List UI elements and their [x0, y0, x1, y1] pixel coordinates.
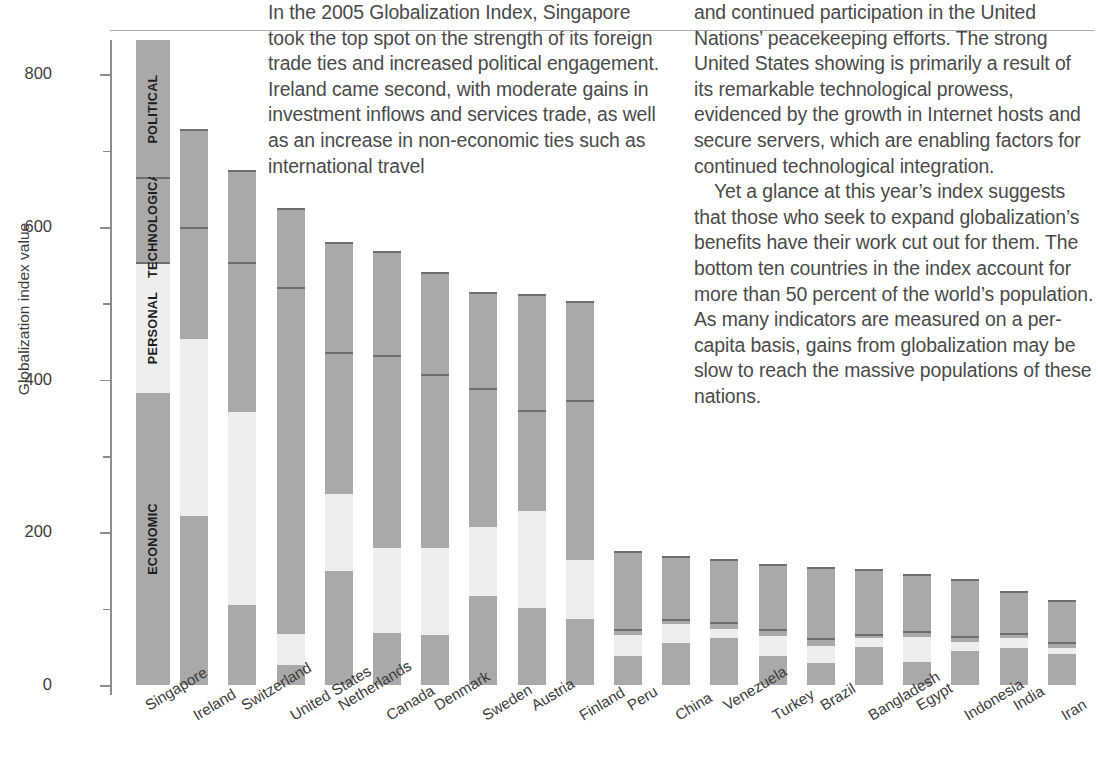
bar-segment-technological — [855, 634, 883, 639]
bar-canada[interactable] — [373, 251, 401, 685]
y-axis-line — [110, 40, 112, 695]
bar-iran[interactable] — [1048, 600, 1076, 685]
bar-segment-personal — [566, 560, 594, 620]
bar-segment-economic — [1048, 654, 1076, 685]
bar-segment-technological — [662, 619, 690, 624]
bar-segment-technological — [180, 227, 208, 339]
legend-segment-political: POLITICAL — [136, 40, 170, 177]
legend-stacked-bar: ECONOMICPERSONALTECHNOLOGICALPOLITICAL — [136, 40, 170, 685]
bar-segment-personal — [662, 624, 690, 643]
bar-egypt[interactable] — [903, 574, 931, 685]
bar-segment-technological — [1048, 642, 1076, 647]
bar-finland[interactable] — [566, 301, 594, 685]
y-tick-label-600: 600 — [0, 217, 52, 236]
bar-segment-personal — [951, 642, 979, 651]
bar-peru[interactable] — [614, 551, 642, 685]
category-label-ireland: Ireland — [190, 685, 239, 723]
y-tick-0 — [100, 685, 110, 687]
bar-ireland[interactable] — [180, 129, 208, 685]
bar-segment-economic — [421, 635, 449, 685]
category-label-iran: Iran — [1058, 696, 1089, 724]
bar-segment-economic — [855, 647, 883, 685]
category-label-sweden: Sweden — [479, 681, 535, 724]
bar-segment-personal — [614, 635, 642, 656]
y-tick-label-200: 200 — [0, 522, 52, 541]
bar-bangladesh[interactable] — [855, 569, 883, 685]
bar-segment-technological — [566, 400, 594, 560]
bar-segment-economic — [180, 516, 208, 685]
bar-united-states[interactable] — [277, 208, 305, 685]
y-tick-600 — [100, 227, 110, 229]
bar-segment-political — [566, 301, 594, 400]
y-tick-label-400: 400 — [0, 370, 52, 389]
bar-segment-technological — [614, 629, 642, 635]
bar-denmark[interactable] — [421, 272, 449, 685]
bar-segment-political — [373, 251, 401, 354]
legend-label-personal: PERSONAL — [146, 292, 160, 364]
y-minor-tick-300 — [103, 456, 110, 458]
category-label-peru: Peru — [624, 682, 660, 713]
bar-segment-personal — [469, 527, 497, 596]
bar-segment-technological — [421, 374, 449, 548]
bar-segment-political — [710, 559, 738, 622]
category-label-china: China — [672, 689, 715, 724]
bar-segment-personal — [710, 629, 738, 638]
y-minor-tick-700 — [103, 151, 110, 153]
bar-switzerland[interactable] — [228, 170, 256, 685]
bar-india[interactable] — [1000, 591, 1028, 685]
bar-segment-technological — [903, 631, 931, 637]
bar-segment-technological — [325, 352, 353, 494]
bar-segment-political — [325, 242, 353, 352]
y-tick-200 — [100, 532, 110, 534]
bar-segment-political — [614, 551, 642, 629]
legend-segment-technological: TECHNOLOGICAL — [136, 177, 170, 263]
bar-segment-political — [951, 579, 979, 636]
y-minor-tick-500 — [103, 303, 110, 305]
bar-segment-personal — [903, 637, 931, 662]
bar-segment-personal — [759, 636, 787, 656]
plot-area: 0200400600800 ECONOMICPERSONALTECHNOLOGI… — [64, 30, 1094, 690]
bar-venezuela[interactable] — [710, 559, 738, 685]
bar-segment-political — [759, 564, 787, 629]
bar-segment-economic — [566, 619, 594, 685]
y-tick-800 — [100, 74, 110, 76]
bar-segment-personal — [180, 339, 208, 515]
y-tick-400 — [100, 380, 110, 382]
legend-label-political: POLITICAL — [146, 74, 160, 143]
bar-segment-economic — [951, 651, 979, 685]
bar-netherlands[interactable] — [325, 242, 353, 685]
bar-segment-economic — [518, 608, 546, 685]
x-axis-baseline — [110, 30, 1094, 31]
bar-segment-personal — [518, 511, 546, 608]
y-tick-label-800: 800 — [0, 64, 52, 83]
globalization-index-chart: Globalization index value 0200400600800 … — [0, 0, 1098, 765]
bar-segment-political — [421, 272, 449, 374]
bar-segment-political — [228, 170, 256, 262]
bar-segment-political — [180, 129, 208, 227]
bar-segment-political — [903, 574, 931, 630]
bar-segment-technological — [518, 410, 546, 511]
bar-segment-economic — [614, 656, 642, 685]
bar-segment-technological — [277, 287, 305, 634]
bar-indonesia[interactable] — [951, 579, 979, 685]
bar-segment-technological — [807, 638, 835, 646]
bar-sweden[interactable] — [469, 292, 497, 685]
legend-segment-personal: PERSONAL — [136, 264, 170, 393]
bar-segment-personal — [228, 412, 256, 605]
bar-segment-political — [1000, 591, 1028, 633]
bar-segment-technological — [710, 622, 738, 628]
category-label-turkey: Turkey — [769, 685, 817, 723]
bar-segment-political — [518, 294, 546, 410]
bar-china[interactable] — [662, 556, 690, 685]
bar-segment-technological — [373, 355, 401, 548]
bar-segment-economic — [228, 605, 256, 685]
legend-label-technological: TECHNOLOGICAL — [146, 164, 160, 278]
bar-segment-technological — [759, 629, 787, 636]
bar-segment-economic — [710, 638, 738, 685]
bar-segment-political — [469, 292, 497, 388]
bar-segment-personal — [855, 638, 883, 646]
y-tick-label-0: 0 — [0, 675, 52, 694]
bar-brazil[interactable] — [807, 567, 835, 685]
legend-label-economic: ECONOMIC — [146, 503, 160, 575]
bar-austria[interactable] — [518, 294, 546, 685]
